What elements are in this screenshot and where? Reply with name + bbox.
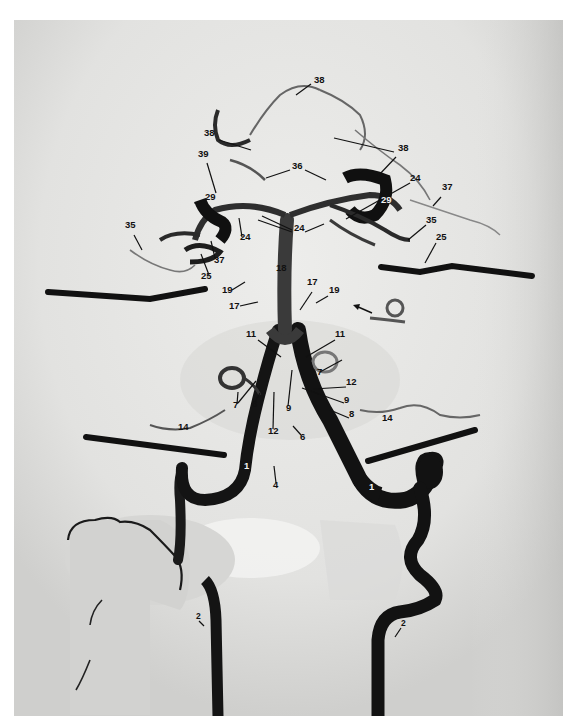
label-2: 2	[196, 612, 201, 621]
label-37: 37	[442, 182, 453, 192]
label-19: 19	[222, 285, 233, 295]
label-14: 14	[178, 422, 189, 432]
label-19: 19	[329, 285, 340, 295]
label-12: 12	[346, 377, 357, 387]
label-25: 25	[201, 271, 212, 281]
label-9: 9	[344, 395, 349, 405]
label-29: 29	[205, 192, 216, 202]
label-17: 17	[307, 277, 318, 287]
label-4: 4	[273, 480, 278, 490]
label-24: 24	[240, 232, 251, 242]
label-38: 38	[398, 143, 409, 153]
angiogram-image	[14, 20, 563, 716]
label-11: 11	[246, 329, 256, 339]
label-1: 1	[244, 461, 249, 471]
label-1: 1	[369, 482, 374, 492]
label-25: 25	[436, 232, 447, 242]
label-6: 6	[300, 432, 305, 442]
label-35: 35	[125, 220, 136, 230]
label-24: 24	[294, 223, 305, 233]
label-8: 8	[252, 399, 257, 409]
label-18: 18	[276, 263, 287, 273]
label-37: 37	[214, 255, 225, 265]
label-29: 29	[381, 195, 392, 205]
label-11: 11	[335, 329, 345, 339]
label-39: 39	[198, 149, 209, 159]
label-8: 8	[349, 409, 354, 419]
label-36: 36	[292, 161, 303, 171]
label-17: 17	[229, 301, 240, 311]
label-7: 7	[317, 367, 322, 377]
label-2: 2	[401, 619, 406, 628]
angiogram-plate: 3838383936243729292424353525371825171919…	[14, 20, 563, 716]
label-38: 38	[204, 128, 215, 138]
label-14: 14	[382, 413, 393, 423]
label-24: 24	[410, 173, 421, 183]
label-12: 12	[268, 426, 279, 436]
label-7: 7	[233, 400, 238, 410]
label-35: 35	[426, 215, 437, 225]
label-38: 38	[314, 75, 325, 85]
label-9: 9	[286, 403, 291, 413]
